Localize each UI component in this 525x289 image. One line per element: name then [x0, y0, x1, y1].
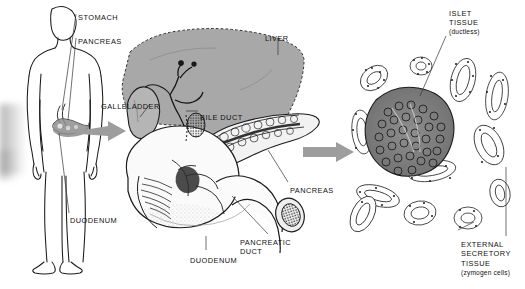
human-body-organ-shading: [53, 119, 89, 137]
label-pancreas-body: PANCREAS: [78, 37, 122, 46]
label-pancreas-gross: PANCREAS: [290, 186, 334, 195]
human-body-outline: [27, 6, 103, 274]
label-islet-tissue: ISLET TISSUE: [449, 9, 478, 28]
label-duodenum-body: DUODENUM: [70, 216, 117, 225]
figure-plate: STOMACH PANCREAS DUODENUM LIVER GALLBLAD…: [0, 0, 525, 289]
duodenum-shape: [126, 126, 308, 253]
histology-section: [345, 56, 513, 236]
label-duodenum-gross: DUODENUM: [190, 256, 237, 265]
label-pancreatic-duct: PANCREATIC DUCT: [240, 238, 291, 257]
islet-of-langerhans: [365, 87, 454, 176]
label-external-secretory-tissue: EXTERNAL SECRETORY TISSUE: [461, 240, 511, 268]
label-liver: LIVER: [265, 34, 289, 43]
arrow-gross-to-histology: [303, 142, 354, 162]
label-external-secretory-tissue-note: (zymogen cells): [461, 268, 510, 277]
label-stomach: STOMACH: [78, 13, 118, 22]
label-islet-tissue-note: (ductless): [449, 27, 480, 36]
label-gallbladder: GALLBLADDER: [101, 102, 160, 111]
label-bile-duct: BILE DUCT: [200, 113, 243, 122]
